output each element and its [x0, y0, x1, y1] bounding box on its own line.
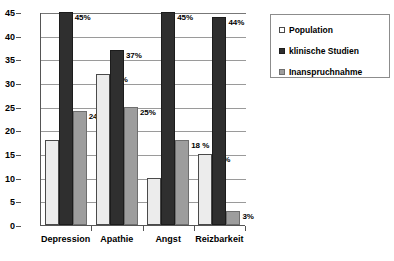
bar — [59, 12, 73, 225]
y-axis: 051015202530354045 — [0, 0, 40, 240]
y-tick-label: 20 — [0, 127, 15, 136]
chart-legend: Populationklinische StudienInanspruchnah… — [270, 14, 390, 78]
y-tick-mark — [16, 60, 21, 61]
x-tick-label-reizbarkeit: Reizbarkeit — [194, 234, 245, 244]
legend-swatch-icon — [279, 48, 285, 54]
y-tick-label: 15 — [0, 151, 15, 160]
x-tick-label-apathie: Apathie — [91, 234, 142, 244]
y-tick-mark — [16, 37, 21, 38]
bar — [96, 74, 110, 225]
bar — [124, 107, 138, 225]
y-tick-mark — [16, 179, 21, 180]
legend-swatch-icon — [279, 27, 285, 33]
x-tick-mark — [194, 226, 195, 231]
legend-item[interactable]: klinische Studien — [279, 46, 359, 56]
bar — [175, 140, 189, 225]
bar-group: 15%44%3% — [198, 12, 240, 225]
bar-value-label: 3% — [242, 213, 254, 221]
bar-group: 10%45%18 % — [147, 12, 189, 225]
y-tick-label: 40 — [0, 33, 15, 42]
legend-item[interactable]: Inanspruchnahme — [279, 67, 362, 77]
legend-label: klinische Studien — [289, 47, 359, 56]
bar — [226, 211, 240, 225]
legend-label: Population — [289, 26, 333, 35]
y-tick-label: 30 — [0, 80, 15, 89]
y-tick-label: 35 — [0, 56, 15, 65]
x-tick-mark — [245, 226, 246, 231]
y-tick-mark — [16, 202, 21, 203]
y-tick-label: 0 — [0, 222, 15, 231]
bar — [198, 154, 212, 225]
bar-value-label: 37% — [126, 52, 142, 60]
bar-value-label: 45% — [75, 14, 91, 22]
bar-chart: 051015202530354045 18%45%24%32%37%25%10%… — [0, 0, 394, 261]
bar-group: 32%37%25% — [96, 12, 138, 225]
y-tick-label: 10 — [0, 175, 15, 184]
y-tick-label: 45 — [0, 9, 15, 18]
bar — [45, 140, 59, 225]
plot-area: 18%45%24%32%37%25%10%45%18 %15%44%3% — [40, 13, 245, 226]
legend-swatch-icon — [279, 69, 285, 75]
bar-group: 18%45%24% — [45, 12, 87, 225]
y-tick-mark — [16, 155, 21, 156]
legend-item[interactable]: Population — [279, 25, 333, 35]
y-tick-mark — [16, 108, 21, 109]
legend-label: Inanspruchnahme — [289, 68, 362, 77]
y-tick-mark — [16, 131, 21, 132]
y-tick-mark — [16, 226, 21, 227]
y-tick-label: 5 — [0, 198, 15, 207]
bar — [110, 50, 124, 225]
y-tick-mark — [16, 84, 21, 85]
bar-value-label: 45% — [177, 14, 193, 22]
x-tick-label-angst: Angst — [143, 234, 194, 244]
x-tick-mark — [143, 226, 144, 231]
y-tick-mark — [16, 13, 21, 14]
bar — [147, 178, 161, 225]
bar-value-label: 44% — [228, 19, 244, 27]
bar — [73, 111, 87, 225]
x-tick-label-depression: Depression — [40, 234, 91, 244]
bar — [161, 12, 175, 225]
y-tick-label: 25 — [0, 104, 15, 113]
bar — [212, 17, 226, 225]
x-tick-mark — [91, 226, 92, 231]
